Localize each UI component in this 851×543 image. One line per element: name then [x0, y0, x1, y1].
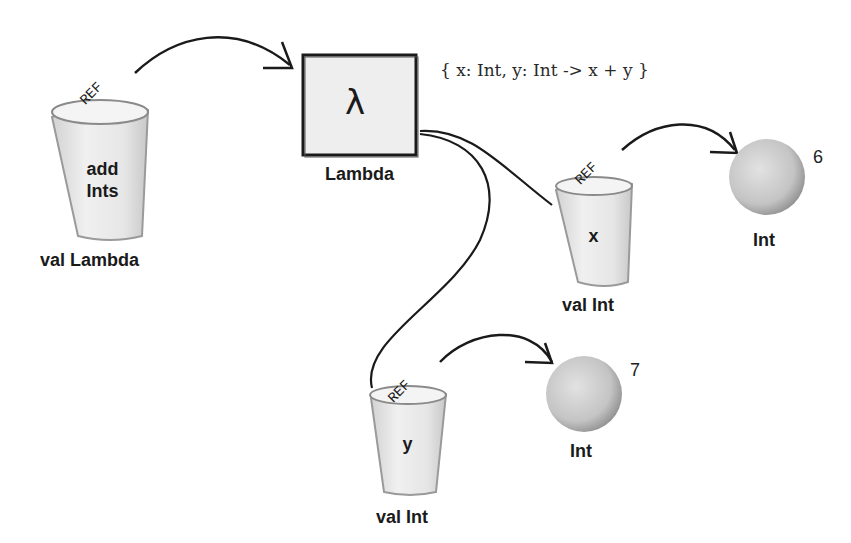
- variable-name-line-2: Ints: [70, 180, 135, 202]
- variable-name-y: y: [390, 433, 425, 455]
- variable-name-addints: add Ints: [70, 158, 135, 202]
- diagram-canvas: [0, 0, 851, 543]
- int-label-7: Int: [570, 441, 592, 462]
- int-value-7: 7: [630, 360, 640, 381]
- lambda-label: Lambda: [325, 164, 394, 185]
- arrow-y-to-int7: [440, 335, 552, 363]
- int-value-6: 6: [813, 147, 823, 168]
- variable-type-x: val Int: [562, 295, 614, 316]
- line-lambda-to-x: [420, 131, 552, 205]
- arrow-addints-to-lambda: [135, 37, 292, 73]
- variable-name-x: x: [576, 225, 611, 247]
- variable-type-y: val Int: [376, 507, 428, 528]
- variable-type-addints: val Lambda: [40, 250, 139, 271]
- int-object-6: [729, 139, 805, 215]
- int-label-6: Int: [753, 230, 775, 251]
- lambda-symbol: λ: [345, 82, 365, 122]
- lambda-expression: { x: Int, y: Int -> x + y }: [440, 60, 649, 80]
- arrow-x-to-int6: [622, 124, 737, 153]
- variable-name-line-1: add: [70, 158, 135, 180]
- int-object-7: [546, 356, 622, 432]
